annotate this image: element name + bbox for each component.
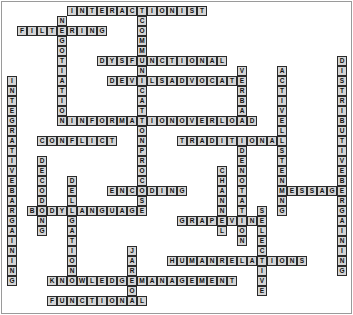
crossword-cell[interactable]: T [137, 6, 147, 16]
crossword-cell[interactable]: O [237, 176, 247, 186]
crossword-cell[interactable]: T [67, 236, 77, 246]
crossword-cell[interactable]: I [57, 66, 67, 76]
crossword-cell[interactable]: C [207, 76, 217, 86]
crossword-cell[interactable]: C [137, 86, 147, 96]
crossword-cell[interactable]: D [107, 76, 117, 86]
crossword-cell[interactable]: T [87, 296, 97, 306]
crossword-cell[interactable]: N [7, 86, 17, 96]
crossword-cell[interactable]: L [217, 116, 227, 126]
crossword-cell[interactable]: A [7, 226, 17, 236]
crossword-cell[interactable]: N [157, 276, 167, 286]
crossword-cell[interactable]: I [337, 106, 347, 116]
crossword-cell[interactable]: R [7, 206, 17, 216]
crossword-cell[interactable]: T [337, 86, 347, 96]
crossword-cell[interactable]: C [257, 246, 267, 256]
crossword-cell[interactable]: N [57, 16, 67, 26]
crossword-cell[interactable]: V [187, 116, 197, 126]
crossword-cell[interactable]: N [57, 116, 67, 126]
crossword-cell[interactable]: E [187, 276, 197, 286]
crossword-cell[interactable]: S [157, 76, 167, 86]
crossword-cell[interactable]: I [67, 246, 77, 256]
crossword-cell[interactable]: C [217, 166, 227, 176]
crossword-cell[interactable]: F [67, 136, 77, 146]
crossword-cell[interactable]: M [187, 256, 197, 266]
crossword-cell[interactable]: T [7, 96, 17, 106]
crossword-cell[interactable]: T [137, 106, 147, 116]
crossword-cell[interactable]: L [77, 136, 87, 146]
crossword-cell[interactable]: N [67, 266, 77, 276]
crossword-cell[interactable]: E [217, 216, 227, 226]
crossword-cell[interactable]: B [337, 176, 347, 186]
crossword-cell[interactable]: E [117, 76, 127, 86]
crossword-cell[interactable]: T [227, 276, 237, 286]
crossword-cell[interactable]: A [217, 186, 227, 196]
crossword-cell[interactable]: F [87, 116, 97, 126]
crossword-cell[interactable]: U [107, 206, 117, 216]
crossword-cell[interactable]: L [277, 136, 287, 146]
crossword-cell[interactable]: N [247, 216, 257, 226]
crossword-cell[interactable]: N [57, 136, 67, 146]
crossword-cell[interactable]: G [7, 216, 17, 226]
crossword-cell[interactable]: N [37, 216, 47, 226]
crossword-cell[interactable]: E [207, 276, 217, 286]
crossword-cell[interactable]: O [137, 186, 147, 196]
crossword-cell[interactable]: B [337, 116, 347, 126]
crossword-cell[interactable]: R [337, 196, 347, 206]
crossword-cell[interactable]: O [197, 76, 207, 86]
crossword-cell[interactable]: L [87, 276, 97, 286]
crossword-cell[interactable]: T [137, 116, 147, 126]
crossword-cell[interactable]: I [57, 96, 67, 106]
crossword-cell[interactable]: G [57, 36, 67, 46]
crossword-cell[interactable]: G [177, 276, 187, 286]
crossword-cell[interactable]: S [337, 76, 347, 86]
crossword-cell[interactable]: I [337, 226, 347, 236]
crossword-cell[interactable]: D [207, 136, 217, 146]
crossword-cell[interactable]: L [237, 256, 247, 266]
crossword-cell[interactable]: R [107, 116, 117, 126]
crossword-cell[interactable]: S [297, 256, 307, 266]
crossword-cell[interactable]: N [87, 26, 97, 36]
crossword-cell[interactable]: K [47, 276, 57, 286]
crossword-cell[interactable]: O [67, 276, 77, 286]
crossword-cell[interactable]: C [137, 176, 147, 186]
crossword-cell[interactable]: E [257, 236, 267, 246]
crossword-cell[interactable]: S [297, 186, 307, 196]
crossword-cell[interactable]: L [37, 26, 47, 36]
crossword-cell[interactable]: N [77, 6, 87, 16]
crossword-cell[interactable]: E [197, 116, 207, 126]
crossword-cell[interactable]: N [217, 196, 227, 206]
crossword-cell[interactable]: O [247, 136, 257, 146]
crossword-cell[interactable]: V [277, 106, 287, 116]
crossword-cell[interactable]: G [277, 206, 287, 216]
crossword-cell[interactable]: D [47, 206, 57, 216]
crossword-cell[interactable]: E [107, 186, 117, 196]
crossword-cell[interactable]: O [137, 166, 147, 176]
crossword-cell[interactable]: S [187, 6, 197, 16]
crossword-cell[interactable]: W [77, 276, 87, 286]
crossword-cell[interactable]: I [257, 266, 267, 276]
crossword-cell[interactable]: E [67, 186, 77, 196]
crossword-cell[interactable]: F [47, 296, 57, 306]
crossword-cell[interactable]: T [337, 136, 347, 146]
crossword-cell[interactable]: G [117, 276, 127, 286]
crossword-cell[interactable]: E [237, 76, 247, 86]
crossword-cell[interactable]: T [257, 256, 267, 266]
crossword-cell[interactable]: V [7, 166, 17, 176]
crossword-cell[interactable]: O [127, 286, 137, 296]
crossword-cell[interactable]: L [217, 56, 227, 66]
crossword-cell[interactable]: N [237, 236, 247, 246]
crossword-cell[interactable]: E [237, 156, 247, 166]
crossword-cell[interactable]: I [267, 256, 277, 266]
crossword-grid[interactable]: INTERACTIONISTFILTERINGDYSFUNCTIONALDEVI… [0, 0, 353, 315]
crossword-cell[interactable]: I [147, 116, 157, 126]
crossword-cell[interactable]: A [217, 76, 227, 86]
crossword-cell[interactable]: N [167, 186, 177, 196]
crossword-cell[interactable]: I [337, 146, 347, 156]
crossword-cell[interactable]: P [207, 216, 217, 226]
crossword-cell[interactable]: V [237, 66, 247, 76]
crossword-cell[interactable]: M [137, 36, 147, 46]
crossword-cell[interactable]: I [277, 96, 287, 106]
crossword-cell[interactable]: G [97, 26, 107, 36]
crossword-cell[interactable]: V [257, 276, 267, 286]
crossword-cell[interactable]: U [137, 56, 147, 66]
